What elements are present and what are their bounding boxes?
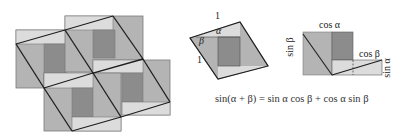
diagram-canvas — [0, 0, 403, 138]
formula-term2: cos α sin β — [324, 93, 369, 104]
formula-term1: sin α cos β — [267, 93, 312, 104]
sin-beta-label: sin β — [285, 37, 295, 56]
formula-equals: = — [259, 93, 265, 104]
diamond-top-side-label: 1 — [215, 11, 220, 21]
cos-beta-label: cos β — [359, 49, 380, 59]
sine-sum-formula: sin(α + β) = sin α cos β + cos α sin β — [215, 93, 369, 104]
formula-lhs: sin(α + β) — [215, 93, 256, 104]
diamond-figure — [190, 22, 268, 79]
tiling-figure — [16, 16, 170, 131]
formula-plus: + — [315, 93, 321, 104]
alpha-angle-label: α — [216, 26, 221, 36]
tile-c — [44, 73, 121, 131]
diamond-left-side-label: 1 — [197, 55, 202, 65]
cos-alpha-label: cos α — [319, 20, 340, 30]
sin-alpha-label: sin α — [382, 58, 392, 77]
beta-angle-label: β — [199, 36, 204, 46]
